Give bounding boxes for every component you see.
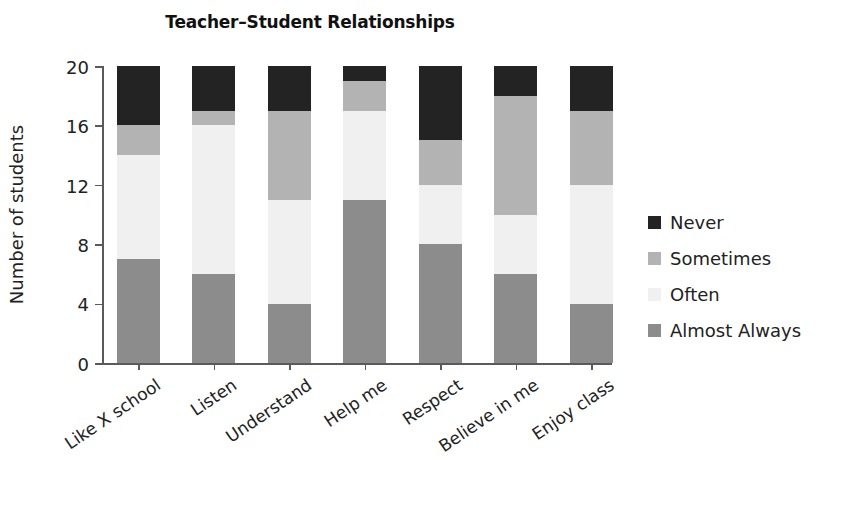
plot-area: 048121620 xyxy=(112,66,612,363)
y-tick-0: 0 xyxy=(95,363,102,365)
legend-swatch-icon xyxy=(648,288,661,301)
bar-segment[interactable] xyxy=(419,66,462,140)
x-tick xyxy=(214,363,216,370)
legend-item[interactable]: Often xyxy=(648,276,801,312)
x-tick xyxy=(440,363,442,370)
legend-label: Sometimes xyxy=(670,248,771,269)
y-tick-label: 8 xyxy=(78,234,89,255)
x-tick xyxy=(138,363,140,370)
x-axis-line xyxy=(102,363,612,365)
legend-item[interactable]: Almost Always xyxy=(648,312,801,348)
legend-swatch-icon xyxy=(648,324,661,337)
x-tick xyxy=(516,363,518,370)
x-axis-label: Like X school xyxy=(60,373,164,453)
y-tick-4: 4 xyxy=(95,304,102,306)
bar-segment[interactable] xyxy=(494,215,537,274)
legend-item[interactable]: Never xyxy=(648,204,801,240)
bar-segment[interactable] xyxy=(117,259,160,363)
bar-segment[interactable] xyxy=(192,66,235,111)
bar-segment[interactable] xyxy=(494,66,537,96)
bar-segment[interactable] xyxy=(192,274,235,363)
x-tick xyxy=(591,363,593,370)
legend-label: Often xyxy=(670,284,720,305)
y-tick-20: 20 xyxy=(95,66,102,68)
x-axis-label: Respect xyxy=(398,373,466,429)
bar-segment[interactable] xyxy=(268,200,311,304)
legend-item[interactable]: Sometimes xyxy=(648,240,801,276)
x-tick xyxy=(289,363,291,370)
chart-title: Teacher–Student Relationships xyxy=(0,12,620,32)
bar-segment[interactable] xyxy=(343,111,386,200)
bar-group[interactable] xyxy=(570,66,613,363)
y-tick-label: 12 xyxy=(66,175,89,196)
y-tick-label: 4 xyxy=(78,294,89,315)
bar-segment[interactable] xyxy=(570,185,613,304)
bar-segment[interactable] xyxy=(117,66,160,125)
chart-legend: NeverSometimesOftenAlmost Always xyxy=(648,204,801,348)
bar-segment[interactable] xyxy=(570,304,613,363)
bar-segment[interactable] xyxy=(570,111,613,185)
y-tick-label: 20 xyxy=(66,56,89,77)
y-axis-line xyxy=(102,66,104,363)
bar-segment[interactable] xyxy=(419,140,462,185)
y-tick-8: 8 xyxy=(95,244,102,246)
bar-group[interactable] xyxy=(268,66,311,363)
bar-segment[interactable] xyxy=(117,125,160,155)
y-tick-16: 16 xyxy=(95,125,102,127)
x-axis-label: Enjoy class xyxy=(527,373,617,444)
x-axis-label: Help me xyxy=(319,373,390,431)
bar-segment[interactable] xyxy=(268,304,311,363)
x-tick xyxy=(365,363,367,370)
y-tick-label: 0 xyxy=(78,353,89,374)
bar-segment[interactable] xyxy=(494,96,537,215)
bar-segment[interactable] xyxy=(570,66,613,111)
bar-group[interactable] xyxy=(343,66,386,363)
bar-segment[interactable] xyxy=(494,274,537,363)
bar-segment[interactable] xyxy=(268,111,311,200)
x-axis-label: Listen xyxy=(185,373,240,420)
legend-swatch-icon xyxy=(648,216,661,229)
bar-group[interactable] xyxy=(117,66,160,363)
legend-swatch-icon xyxy=(648,252,661,265)
bar-group[interactable] xyxy=(494,66,537,363)
bar-segment[interactable] xyxy=(343,66,386,81)
bar-segment[interactable] xyxy=(419,244,462,363)
legend-label: Never xyxy=(670,212,724,233)
bar-group[interactable] xyxy=(419,66,462,363)
y-tick-label: 16 xyxy=(66,116,89,137)
bar-segment[interactable] xyxy=(343,200,386,363)
bar-segment[interactable] xyxy=(419,185,462,244)
legend-label: Almost Always xyxy=(670,320,801,341)
y-tick-12: 12 xyxy=(95,185,102,187)
y-axis-title: Number of students xyxy=(6,66,32,363)
bar-segment[interactable] xyxy=(343,81,386,111)
stacked-bar-chart: Teacher–Student Relationships Number of … xyxy=(0,0,843,514)
bar-segment[interactable] xyxy=(268,66,311,111)
bar-segment[interactable] xyxy=(192,125,235,274)
bar-segment[interactable] xyxy=(117,155,160,259)
bar-segment[interactable] xyxy=(192,111,235,126)
bar-group[interactable] xyxy=(192,66,235,363)
